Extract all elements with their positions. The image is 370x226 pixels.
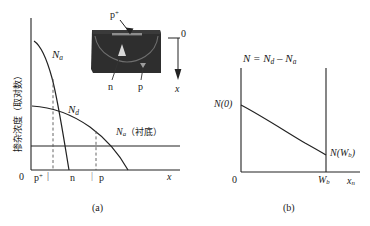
panel-a-x-axis-label: x: [167, 172, 171, 182]
panel-a-origin-label: 0: [19, 172, 24, 182]
label-curve-substrate: Na（衬底）: [116, 127, 162, 138]
panel-b-tick-label-wb: Wb: [318, 175, 330, 186]
panel-a-region-divider-2: |: [91, 171, 93, 181]
device-p-plus-layer: [112, 33, 142, 35]
curve-net-doping: [241, 105, 326, 155]
panel-a-region-label-n: n: [70, 173, 75, 183]
panel-a-region-label-p-plus: p+: [34, 173, 43, 183]
device-p-label: p: [138, 82, 143, 92]
device-depth-axis: [168, 38, 181, 80]
panel-b-x-axis-label: xn: [347, 176, 355, 187]
panel-b-y-axis-label: N = Nd – Na: [243, 53, 296, 65]
device-depth-axis-label: x: [175, 84, 179, 94]
panel-a-y-axis-label: 掺杂浓度（取对数）: [14, 71, 23, 152]
panel-a-region-label-p: p: [99, 173, 104, 183]
panel-b-value-at-zero-label: N(0): [214, 99, 232, 109]
device-depth-origin-label: 0: [181, 29, 186, 39]
panel-b-origin-label: 0: [232, 175, 237, 185]
label-curve-acceptor-surface: Na: [52, 49, 63, 61]
curve-donor: [32, 106, 128, 170]
device-p-plus-label: p+: [110, 10, 119, 20]
device-n-label: n: [108, 82, 113, 92]
device-depth-arrowhead: [175, 69, 182, 80]
panel-a-caption: (a): [92, 203, 103, 213]
panel-b-value-at-wb-label: N(Wb): [330, 148, 355, 159]
panel-b-caption: (b): [283, 203, 295, 213]
panel-a-region-divider: |: [47, 171, 49, 181]
device-cross-section: [91, 20, 161, 80]
label-curve-donor: Nd: [68, 104, 79, 116]
